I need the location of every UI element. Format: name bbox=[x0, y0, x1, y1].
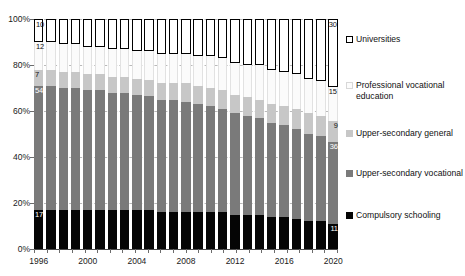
bar-column[interactable] bbox=[46, 19, 55, 249]
bar-segment-value-label: 54 bbox=[35, 87, 43, 95]
bar-column[interactable] bbox=[292, 19, 301, 249]
bar-segment-uppervoc: 54 bbox=[34, 86, 43, 210]
bar-column[interactable] bbox=[132, 19, 141, 249]
bar-segment-uppergen bbox=[243, 97, 252, 115]
bar-segment-compulsory bbox=[83, 210, 92, 249]
bar-column[interactable] bbox=[95, 19, 104, 249]
bar-segment-universities bbox=[292, 19, 301, 74]
bar-segment-uppervoc bbox=[206, 106, 215, 212]
bar-column[interactable] bbox=[71, 19, 80, 249]
bar-segment-uppergen bbox=[83, 74, 92, 90]
bar-segment-value-label: 17 bbox=[35, 211, 43, 219]
bar-segment-uppervoc bbox=[169, 100, 178, 213]
bar-column[interactable] bbox=[255, 19, 264, 249]
legend-label: Upper-secondary vocational bbox=[356, 168, 463, 179]
bar-segment-universities bbox=[144, 19, 153, 51]
legend-label: Compulsory schooling bbox=[356, 210, 441, 221]
bar-segment-universities bbox=[243, 19, 252, 65]
x-axis-tick-label: 2016 bbox=[275, 256, 294, 266]
bar-segment-profvoc bbox=[304, 79, 313, 114]
legend-swatch-icon bbox=[346, 212, 353, 219]
bar-segment-universities bbox=[267, 19, 276, 70]
bar-segment-profvoc bbox=[243, 65, 252, 97]
bar-segment-uppervoc bbox=[132, 95, 141, 210]
stacked-bar-chart: 0%20%40%60%80%100% 101275417301593611 19… bbox=[0, 0, 465, 276]
bar-segment-universities bbox=[316, 19, 325, 81]
bar-column[interactable] bbox=[243, 19, 252, 249]
bar-column[interactable] bbox=[230, 19, 239, 249]
legend-item-compulsory[interactable]: Compulsory schooling bbox=[346, 210, 465, 221]
legend-label: Upper-secondary general bbox=[356, 128, 453, 139]
bar-segment-uppervoc bbox=[108, 93, 117, 210]
bar-segment-profvoc bbox=[120, 49, 129, 77]
bar-segment-uppergen bbox=[267, 104, 276, 122]
bar-segment-compulsory bbox=[230, 215, 239, 250]
x-axis-tick bbox=[72, 249, 73, 253]
bar-column[interactable]: 301593611 bbox=[328, 19, 337, 249]
bar-segment-uppergen bbox=[292, 109, 301, 130]
x-axis-tick-label: 1996 bbox=[29, 256, 48, 266]
x-axis-tick bbox=[122, 249, 123, 253]
bar-column[interactable] bbox=[83, 19, 92, 249]
bar-segment-uppervoc bbox=[120, 93, 129, 210]
legend-item-profvoc[interactable]: Professional vocational education bbox=[346, 80, 465, 101]
bar-column[interactable] bbox=[218, 19, 227, 249]
legend-item-universities[interactable]: Universities bbox=[346, 34, 465, 45]
legend-swatch-icon bbox=[346, 130, 353, 137]
legend-item-uppervoc[interactable]: Upper-secondary vocational bbox=[346, 168, 465, 179]
bar-column[interactable] bbox=[206, 19, 215, 249]
x-axis-tick bbox=[34, 249, 35, 253]
bar-column[interactable] bbox=[157, 19, 166, 249]
bar-segment-profvoc bbox=[292, 74, 301, 109]
bar-column[interactable] bbox=[181, 19, 190, 249]
bar-segment-uppervoc bbox=[59, 88, 68, 210]
bar-segment-value-label: 15 bbox=[329, 88, 337, 96]
bar-column[interactable] bbox=[108, 19, 117, 249]
bar-segment-universities bbox=[255, 19, 264, 65]
bar-column[interactable] bbox=[267, 19, 276, 249]
bar-column[interactable] bbox=[304, 19, 313, 249]
bar-column[interactable]: 101275417 bbox=[34, 19, 43, 249]
bar-segment-universities bbox=[157, 19, 166, 54]
x-axis-tick bbox=[223, 249, 224, 253]
x-axis-tick-label: 2008 bbox=[177, 256, 196, 266]
bar-segment-universities bbox=[304, 19, 313, 79]
bar-column[interactable] bbox=[193, 19, 202, 249]
bar-segment-universities bbox=[108, 19, 117, 49]
bar-segment-uppervoc bbox=[279, 125, 288, 217]
bar-segment-uppervoc bbox=[157, 100, 166, 213]
bar-segment-universities bbox=[95, 19, 104, 47]
bar-segment-uppergen bbox=[46, 70, 55, 86]
bar-segment-universities bbox=[230, 19, 239, 63]
bar-segment-uppervoc bbox=[316, 136, 325, 221]
bar-column[interactable] bbox=[59, 19, 68, 249]
bar-column[interactable] bbox=[169, 19, 178, 249]
x-axis-tick bbox=[110, 249, 111, 253]
y-axis-tick-label: 20% bbox=[13, 199, 30, 208]
x-axis: 1996200020042008201220162020 bbox=[34, 249, 338, 271]
bar-segment-compulsory bbox=[144, 210, 153, 249]
bar-segment-universities bbox=[279, 19, 288, 72]
bar-column[interactable] bbox=[120, 19, 129, 249]
y-axis-tick-label: 60% bbox=[13, 107, 30, 116]
bar-segment-uppervoc bbox=[71, 88, 80, 210]
bar-column[interactable] bbox=[144, 19, 153, 249]
bar-column[interactable] bbox=[279, 19, 288, 249]
bar-segment-compulsory bbox=[267, 217, 276, 249]
bar-segment-universities bbox=[132, 19, 141, 51]
legend-item-uppergen[interactable]: Upper-secondary general bbox=[346, 128, 465, 139]
bar-segment-uppervoc bbox=[304, 134, 313, 221]
bar-segment-compulsory bbox=[71, 210, 80, 249]
y-axis-tick-label: 100% bbox=[8, 15, 30, 24]
y-axis-tick-label: 0% bbox=[18, 245, 30, 254]
x-axis-tick bbox=[261, 249, 262, 253]
bar-segment-uppergen bbox=[181, 83, 190, 101]
bar-segment-uppervoc bbox=[267, 123, 276, 217]
x-axis-tick bbox=[312, 249, 313, 253]
bar-segment-value-label: 30 bbox=[329, 21, 337, 29]
bar-segment-uppervoc bbox=[193, 104, 202, 212]
bar-segment-universities bbox=[83, 19, 92, 47]
x-axis-tick bbox=[337, 249, 338, 253]
bar-segment-universities bbox=[120, 19, 129, 49]
bar-column[interactable] bbox=[316, 19, 325, 249]
